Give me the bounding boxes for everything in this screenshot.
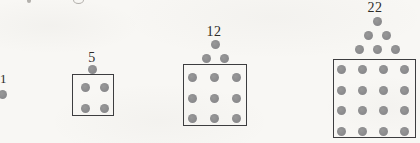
triangle-row bbox=[364, 31, 391, 40]
dot bbox=[88, 65, 97, 74]
dot bbox=[379, 127, 388, 136]
dot bbox=[358, 106, 367, 115]
dot bbox=[337, 106, 346, 115]
dot bbox=[211, 40, 220, 49]
triangle-row bbox=[373, 17, 382, 26]
dot bbox=[188, 94, 197, 103]
dot bbox=[400, 127, 409, 136]
triangle-row bbox=[355, 45, 400, 54]
term-2-count-label: 5 bbox=[82, 51, 102, 65]
dot bbox=[81, 83, 90, 92]
dot bbox=[355, 45, 364, 54]
triangle-row bbox=[211, 40, 220, 49]
term-2-triangle-dots bbox=[88, 65, 97, 74]
dot bbox=[379, 86, 388, 95]
dot bbox=[100, 83, 109, 92]
dot bbox=[358, 86, 367, 95]
dot bbox=[382, 31, 391, 40]
dot bbox=[400, 106, 409, 115]
dot bbox=[202, 54, 211, 63]
dot bbox=[337, 127, 346, 136]
term-4-triangle-dots bbox=[355, 17, 400, 54]
dot bbox=[358, 127, 367, 136]
term-3-count-label: 12 bbox=[201, 25, 227, 39]
pentagonal-numbers-diagram: 1 5 12 22 bbox=[0, 0, 420, 143]
dot bbox=[188, 114, 197, 123]
dot bbox=[379, 65, 388, 74]
dot bbox=[358, 65, 367, 74]
dot bbox=[210, 94, 219, 103]
dot bbox=[337, 65, 346, 74]
triangle-row bbox=[88, 65, 97, 74]
dot bbox=[232, 114, 241, 123]
dot bbox=[391, 45, 400, 54]
dot bbox=[0, 90, 7, 99]
term-1-count-label: 1 bbox=[0, 72, 6, 86]
cropped-text-fragment bbox=[27, 0, 31, 3]
dot bbox=[232, 94, 241, 103]
dot bbox=[100, 104, 109, 113]
dot bbox=[400, 65, 409, 74]
dot bbox=[400, 86, 409, 95]
cropped-text-fragment bbox=[73, 0, 84, 4]
term-4-count-label: 22 bbox=[363, 1, 387, 15]
term-2-square-box bbox=[72, 74, 114, 116]
term-4-square-box bbox=[333, 59, 416, 138]
dot bbox=[373, 45, 382, 54]
term-3-square-box bbox=[183, 64, 247, 126]
dot bbox=[210, 114, 219, 123]
dot bbox=[373, 17, 382, 26]
dot bbox=[364, 31, 373, 40]
dot bbox=[210, 73, 219, 82]
dot bbox=[188, 73, 197, 82]
triangle-row bbox=[202, 54, 229, 63]
dot bbox=[81, 104, 90, 113]
dot bbox=[232, 73, 241, 82]
dot bbox=[379, 106, 388, 115]
term-3-triangle-dots bbox=[202, 40, 229, 63]
dot bbox=[337, 86, 346, 95]
dot bbox=[220, 54, 229, 63]
